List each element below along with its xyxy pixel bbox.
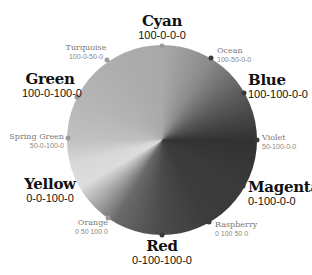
color-code: 50-100-0-0	[262, 143, 296, 150]
color-name: Ocean	[217, 47, 251, 55]
color-code: 0-100-0-0	[248, 196, 312, 207]
color-code: 0 100 50 0	[215, 230, 257, 237]
label-green: Green 100-0-100-0	[22, 72, 78, 99]
color-code: 100-0-0-0	[132, 30, 192, 41]
color-code: 50-0-100-0	[6, 142, 64, 149]
color-name: Violet	[262, 134, 296, 142]
color-code: 100-100-0-0	[248, 89, 308, 100]
color-name: Magenta	[248, 180, 312, 195]
label-spring-green: Spring Green 50-0-100-0	[6, 133, 64, 149]
marker-spring-green	[66, 136, 71, 141]
marker-violet	[255, 138, 260, 143]
color-code: 100-0-100-0	[22, 88, 78, 99]
label-turquoise: Turquoise 100-0-50-0	[64, 44, 108, 60]
label-red: Red 0-100-100-0	[128, 239, 196, 266]
label-ocean: Ocean 100-50-0-0	[217, 47, 251, 63]
label-blue: Blue 100-100-0-0	[248, 73, 308, 100]
marker-magenta	[241, 184, 246, 189]
color-name: Blue	[248, 73, 308, 88]
color-name: Raspberry	[215, 221, 257, 229]
color-wheel-diagram: Cyan 100-0-0-0 Ocean 100-50-0-0 Blue 100…	[0, 0, 312, 275]
color-code: 100-0-50-0	[64, 53, 108, 60]
marker-cyan	[160, 44, 165, 49]
color-name: Turquoise	[64, 44, 108, 52]
color-wheel	[67, 45, 257, 235]
marker-raspberry	[207, 220, 212, 225]
color-code: 100-50-0-0	[217, 56, 251, 63]
label-yellow: Yellow 0-0-100-0	[22, 177, 78, 204]
marker-blue	[242, 91, 247, 96]
color-name: Red	[128, 239, 196, 254]
color-name: Yellow	[22, 177, 78, 192]
label-raspberry: Raspberry 0 100 50 0	[215, 221, 257, 237]
label-orange: Orange 0 50 100 0	[60, 219, 108, 235]
color-name: Spring Green	[6, 133, 64, 141]
color-code: 0-100-100-0	[128, 255, 196, 266]
color-code: 0-0-100-0	[22, 193, 78, 204]
color-code: 0 50 100 0	[60, 228, 108, 235]
marker-ocean	[209, 56, 214, 61]
color-name: Orange	[60, 219, 108, 227]
label-magenta: Magenta 0-100-0-0	[248, 180, 312, 207]
color-name: Cyan	[132, 14, 192, 29]
label-cyan: Cyan 100-0-0-0	[132, 14, 192, 41]
color-name: Green	[22, 72, 78, 87]
label-violet: Violet 50-100-0-0	[262, 134, 296, 150]
